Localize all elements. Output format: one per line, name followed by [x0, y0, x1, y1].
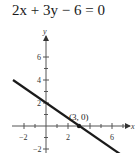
- equation-line: [13, 80, 120, 153]
- y-axis-label: y: [42, 27, 47, 36]
- x-tick-label-neg2: −2: [19, 133, 28, 142]
- point-label: (3, 0): [69, 112, 89, 122]
- y-tick-label-4: 4: [37, 76, 41, 85]
- y-tick-label-neg2: −2: [33, 145, 42, 153]
- y-tick-label-6: 6: [37, 53, 41, 62]
- x-tick-label-2: 2: [66, 133, 70, 142]
- y-tick-label-2: 2: [37, 99, 41, 108]
- intercept-point: [77, 124, 81, 128]
- graph: −2 2 6 6 4 2 −2 x y (3, 0): [0, 0, 139, 153]
- x-axis-label: x: [130, 122, 135, 131]
- x-tick-label-6: 6: [110, 133, 114, 142]
